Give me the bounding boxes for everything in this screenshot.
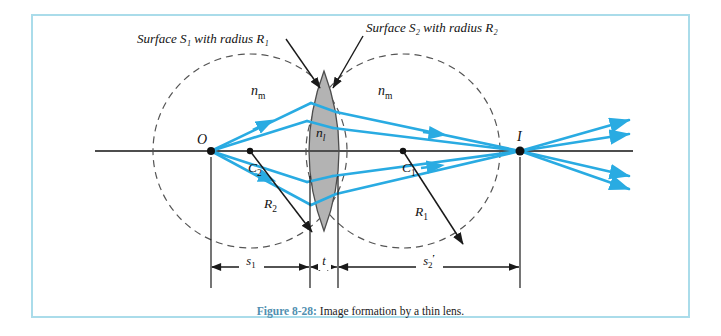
label-object-point: O (197, 132, 207, 147)
dimension-label-masks (239, 256, 443, 270)
ray-upper-2-incident (211, 121, 307, 151)
label-radius-2: R2 (263, 196, 277, 214)
label-medium-right-sub: m (385, 91, 393, 101)
figure-caption-label: Figure 8-28: (257, 305, 317, 317)
label-object-point-text: O (197, 132, 207, 147)
label-radius-1: R1 (414, 204, 428, 222)
label-dim-s2prime-front-mark: ′ (433, 253, 435, 264)
ray-arrow-exit-lower (421, 166, 437, 168)
label-lens-index-sub: l (323, 133, 326, 143)
label-medium-right: nm (378, 83, 393, 101)
figure-page: Surface S₁ with radius R₁ Surface S₂ wit… (0, 0, 721, 336)
label-surface-1-text: Surface S₁ with radius R₁ (137, 31, 269, 46)
label-dim-s1-front: s1 (246, 254, 255, 270)
label-medium-left-sub: m (258, 91, 266, 101)
label-dim-s1-front-sub: 1 (251, 260, 256, 270)
label-medium-right-base: n (378, 83, 385, 98)
label-medium-left: nm (251, 83, 266, 101)
label-dim-t-front: t (322, 254, 326, 268)
radius-arrow-R1 (403, 151, 463, 244)
label-center-2: C2 (248, 160, 262, 178)
leader-surface2 (333, 36, 363, 88)
figure-frame: Surface S₁ with radius R₁ Surface S₂ wit… (31, 14, 690, 318)
label-center-1: C1 (402, 160, 416, 178)
label-surface-1: Surface S₁ with radius R₁ (137, 31, 269, 46)
figure-caption-text: Image formation by a thin lens. (320, 305, 464, 317)
label-image-point-text: I (516, 129, 523, 144)
figure-caption: Figure 8-28: Image formation by a thin l… (33, 305, 688, 317)
radius-arrows (250, 151, 463, 244)
ray-lower-1-after (520, 151, 629, 176)
label-radius-2-sub: 2 (272, 204, 277, 214)
optics-diagram: Surface S₁ with radius R₁ Surface S₂ wit… (33, 16, 688, 316)
label-center-2-sub: 2 (257, 168, 262, 178)
label-dim-t-front-text: t (322, 254, 326, 268)
label-radius-1-sub: 1 (423, 212, 428, 222)
label-surface-2: Surface S₂ with radius R₂ (366, 20, 498, 35)
label-center-1-sub: 1 (411, 168, 416, 178)
label-surface-2-text: Surface S₂ with radius R₂ (366, 20, 498, 35)
label-image-point: I (516, 129, 523, 144)
label-medium-left-base: n (251, 83, 258, 98)
image-point-I (516, 147, 525, 156)
object-point-O (207, 147, 215, 155)
ray-lower-2-after (520, 151, 629, 189)
ray-bundle (211, 103, 629, 205)
radius-arrow-R2 (250, 151, 312, 232)
